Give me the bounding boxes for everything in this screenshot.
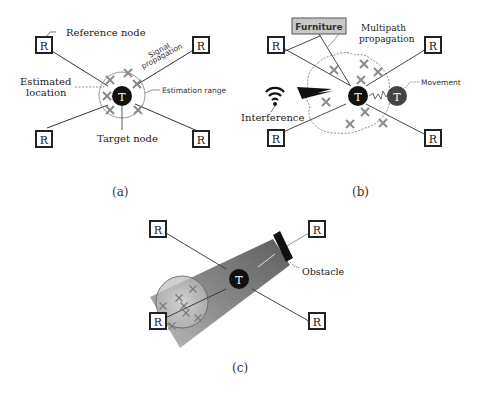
reference-node-br: R bbox=[425, 130, 441, 146]
target-node-label: T bbox=[235, 274, 243, 287]
target-node-label: T bbox=[118, 91, 126, 104]
lightning-bolt-icon bbox=[297, 87, 333, 99]
svg-text:R: R bbox=[197, 40, 206, 53]
estimate-cross-icon bbox=[330, 66, 338, 74]
obstacle-label: Obstacle bbox=[302, 266, 345, 277]
panel-b: Furniture T bbox=[241, 18, 461, 199]
reference-node-tl: R bbox=[150, 221, 166, 237]
reference-node-bl: R bbox=[36, 131, 52, 147]
estimate-cross-icon bbox=[346, 120, 354, 128]
estimate-cross-icon bbox=[106, 76, 114, 84]
reference-node-tr: R bbox=[193, 37, 209, 53]
reference-node-tl: R bbox=[268, 37, 284, 53]
reference-node-label: Reference node bbox=[66, 27, 146, 38]
reference-node-tl: R bbox=[36, 37, 52, 53]
estimate-cross-icon bbox=[361, 108, 369, 116]
svg-text:R: R bbox=[154, 224, 163, 237]
svg-text:R: R bbox=[40, 134, 49, 147]
estimate-cross-icon bbox=[124, 69, 132, 77]
svg-text:R: R bbox=[429, 40, 438, 53]
reference-node-br: R bbox=[309, 313, 325, 329]
estimate-cross-icon bbox=[133, 80, 141, 88]
svg-text:R: R bbox=[429, 133, 438, 146]
svg-text:R: R bbox=[313, 224, 322, 237]
estimate-cross-icon bbox=[357, 76, 365, 84]
svg-text:R: R bbox=[197, 134, 206, 147]
estimate-cross-icon bbox=[379, 119, 387, 127]
estimate-cross-icon bbox=[322, 98, 330, 106]
estimate-cross-icon bbox=[374, 68, 382, 76]
estimate-cross-icon bbox=[360, 60, 368, 68]
caption-a: (a) bbox=[112, 185, 129, 199]
furniture-label: Furniture bbox=[295, 22, 342, 32]
svg-text:R: R bbox=[313, 316, 322, 329]
movement-label: Movement bbox=[421, 78, 461, 87]
reference-node-br: R bbox=[193, 131, 209, 147]
reference-node-bl: R bbox=[150, 313, 166, 329]
signal-line bbox=[135, 104, 200, 132]
reference-node-tr: R bbox=[309, 221, 325, 237]
svg-text:R: R bbox=[154, 316, 163, 329]
localization-diagram: T R R R R Reference node Signal propagat… bbox=[0, 0, 481, 395]
reference-node-tr: R bbox=[425, 37, 441, 53]
caption-b: (b) bbox=[352, 185, 369, 199]
estimate-cross-icon bbox=[106, 106, 114, 114]
estimate-cross-icon bbox=[134, 106, 142, 114]
interference-label: Interference bbox=[241, 112, 304, 123]
panel-c: T R R R R Obstacle (c) bbox=[150, 221, 345, 375]
panel-a: T R R R R Reference node Signal propagat… bbox=[20, 27, 227, 199]
wifi-interference-icon bbox=[266, 88, 284, 112]
caption-c: (c) bbox=[232, 361, 248, 375]
target-node-label: T bbox=[354, 91, 362, 104]
svg-text:R: R bbox=[272, 40, 281, 53]
estimation-range-label: Estimation range bbox=[162, 86, 227, 95]
reference-node-bl: R bbox=[268, 130, 284, 146]
target-node-caption: Target node bbox=[97, 133, 158, 144]
estimated-location-label-2: location bbox=[26, 87, 67, 98]
multipath-label-2: propagation bbox=[359, 34, 415, 44]
multipath-label: Multipath bbox=[361, 23, 406, 33]
estimated-location-label: Estimated bbox=[20, 76, 72, 87]
signal-line bbox=[47, 105, 108, 128]
svg-text:R: R bbox=[272, 133, 281, 146]
moved-target-node-label: T bbox=[393, 91, 401, 104]
estimate-cross-icon bbox=[103, 92, 111, 100]
svg-text:R: R bbox=[40, 40, 49, 53]
